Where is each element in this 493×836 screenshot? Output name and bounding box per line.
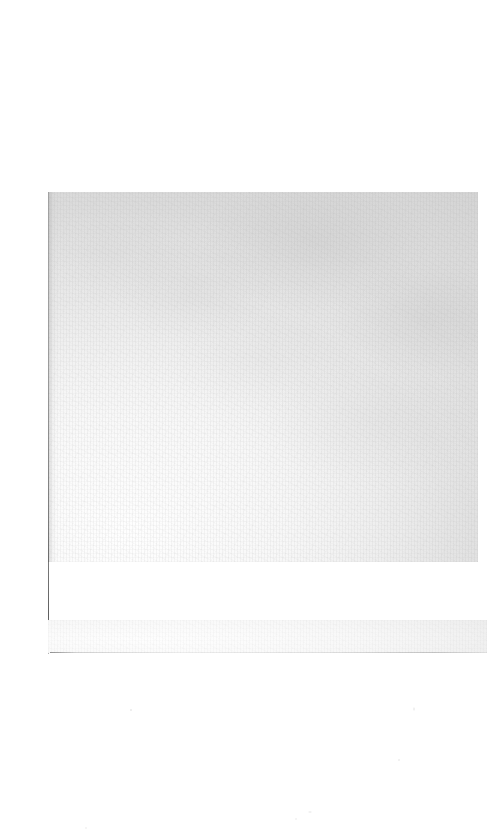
page-body-text: [47, 191, 48, 192]
scanned-document-page: blank page — no visible text or figures: [0, 0, 493, 836]
page-number: [47, 619, 48, 620]
lower-scanned-band: [48, 620, 487, 653]
lower-band-grain-texture: [48, 620, 487, 653]
paper-mottling-texture: [48, 192, 478, 562]
paper-grain-texture: [48, 192, 478, 562]
scanned-page-area: [48, 192, 478, 562]
